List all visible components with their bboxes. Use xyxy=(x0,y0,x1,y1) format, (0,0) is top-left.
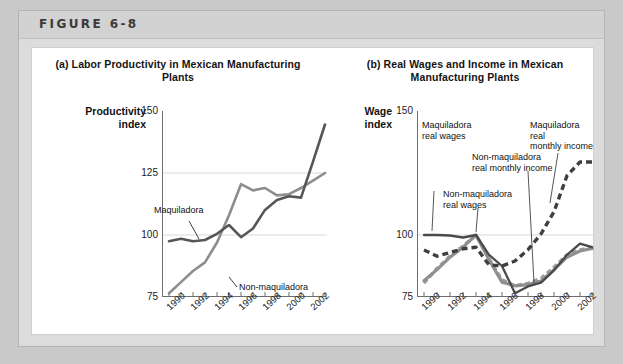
panel-a-callout-maquiladora: Maquiladora xyxy=(154,205,204,216)
panel-b-title: (b) Real Wages and Income in Mexican Man… xyxy=(336,58,594,84)
panel-b-xlabels: 1990 1992 1994 1996 1998 2000 2002 xyxy=(417,300,592,340)
panel-a-title: (a) Labor Productivity in Mexican Manufa… xyxy=(38,58,318,84)
callout-leader-maquiladora xyxy=(189,221,199,239)
callout-leader-non-maquiladora xyxy=(229,277,237,287)
panel-b-ytick-100: 100 xyxy=(387,229,413,240)
panel-a-svg xyxy=(163,111,327,297)
panel-b-callout-non-maquiladora-real-monthly-income: Non-maquiladora real monthly income xyxy=(472,152,553,173)
callout-leader-non-maq-income xyxy=(528,171,534,283)
figure-body: (a) Labor Productivity in Mexican Manufa… xyxy=(31,47,594,335)
series-maquiladora xyxy=(169,125,325,242)
panel-b-ytick-150: 150 xyxy=(387,105,413,116)
panel-b-callout-maquiladora-real-wages: Maquiladora real wages xyxy=(422,120,472,141)
figure-frame: FIGURE 6-8 (a) Labor Productivity in Mex… xyxy=(18,10,605,347)
panel-a-ytick-100: 100 xyxy=(132,229,158,240)
panel-a-plot xyxy=(162,111,326,297)
panel-b-callout-maquiladora-real-monthly-income: Maquiladora real monthly income xyxy=(530,120,595,152)
series-maquiladora-real-monthly-income xyxy=(424,162,592,266)
panel-b-ytick-75: 75 xyxy=(387,291,413,302)
figure-header: FIGURE 6-8 xyxy=(19,11,604,39)
panel-a: (a) Labor Productivity in Mexican Manufa… xyxy=(32,48,332,336)
panel-a-ytick-150: 150 xyxy=(132,105,158,116)
callout-leader-non-maq-real-wages xyxy=(476,208,478,232)
figure-label: FIGURE 6-8 xyxy=(39,17,139,31)
callout-leader-maq-real-wages xyxy=(432,191,434,231)
panel-a-ytick-75: 75 xyxy=(132,291,158,302)
panel-b-y-axis-title: Wage index xyxy=(340,105,392,130)
panel-a-xlabels: 1990 1992 1994 1996 1998 2000 2002 xyxy=(162,300,326,340)
panel-b-callout-non-maquiladora-real-wages: Non-maquiladora real wages xyxy=(443,189,512,210)
panel-b: (b) Real Wages and Income in Mexican Man… xyxy=(332,48,595,336)
panel-a-ytick-125: 125 xyxy=(132,167,158,178)
panel-a-y-axis-title: Productivity index xyxy=(38,105,146,130)
